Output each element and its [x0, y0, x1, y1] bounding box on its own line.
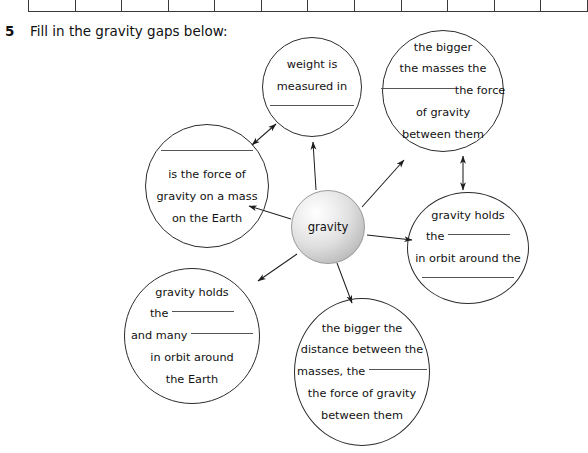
bubble-line-prefix: the — [150, 307, 169, 320]
bubble-line: gravity holds — [431, 205, 505, 227]
bubble-line: the bigger — [414, 37, 472, 59]
bubble-line: on the Earth — [172, 208, 242, 230]
answer-blank[interactable] — [161, 150, 253, 151]
bubble-line-prefix: and many — [131, 329, 188, 342]
arrow-gravity-to-weight — [313, 142, 316, 190]
bubble-line: is the force of — [168, 164, 246, 186]
answer-blank[interactable] — [172, 311, 234, 312]
bubble-line: the — [150, 303, 234, 325]
central-gravity-label: gravity — [308, 220, 349, 234]
bubble-line: between them — [402, 124, 484, 146]
bubble-line: the masses the — [400, 58, 487, 80]
bubble-line: measured in — [277, 76, 347, 98]
bubble-weight-is-measured-in[interactable]: weight is measured in — [262, 37, 362, 137]
bubble-line: weight is — [287, 54, 338, 76]
bubble-line: in orbit around the — [415, 248, 521, 270]
bubble-line: the — [426, 226, 510, 248]
bubble-line: distance between the — [301, 339, 423, 361]
arrow-gravity-to-distance — [337, 263, 352, 303]
answer-blank[interactable] — [191, 333, 253, 334]
bubble-gravity-holds-the-in-orbit[interactable]: gravity holds the in orbit around the — [407, 192, 529, 304]
arrow-gravity-to-masses — [362, 160, 404, 207]
arrow-weight-def-to-weight — [252, 124, 276, 145]
bubble-line-prefix: the — [426, 230, 445, 243]
bubble-line-suffix: the force — [455, 84, 506, 97]
bubble-line-prefix: masses, the — [297, 365, 365, 378]
bubble-line: the Earth — [166, 369, 218, 391]
bubble-line — [161, 143, 253, 165]
bubble-line: gravity on a mass — [156, 186, 257, 208]
answer-blank[interactable] — [369, 369, 427, 370]
bubble-line: the force of gravity — [308, 383, 416, 405]
bubble-line: and many — [131, 325, 253, 347]
central-gravity-node[interactable]: gravity — [291, 190, 365, 264]
bubble-line: masses, the — [297, 361, 427, 383]
answer-blank[interactable] — [381, 88, 455, 89]
arrow-gravity-to-moon — [367, 235, 412, 240]
answer-blank[interactable] — [270, 105, 354, 106]
answer-blank[interactable] — [448, 234, 510, 235]
bubble-line — [422, 270, 514, 292]
bubble-line: the bigger the — [322, 318, 403, 340]
bubble-the-bigger-the-distance[interactable]: the bigger the distance between the mass… — [294, 298, 430, 446]
arrow-gravity-to-planets — [258, 254, 297, 281]
bubble-line: in orbit around — [150, 347, 234, 369]
bubble-line — [270, 98, 354, 120]
answer-blank[interactable] — [422, 277, 514, 278]
bubble-line: of gravity — [416, 102, 470, 124]
bubble-line: between them — [321, 405, 403, 427]
bubble-gravity-holds-planets[interactable]: gravity holds the and many in orbit arou… — [124, 268, 260, 404]
bubble-line: the force — [381, 80, 506, 102]
bubble-line: gravity holds — [155, 282, 229, 304]
bubble-force-of-gravity-on-a-mass[interactable]: is the force of gravity on a mass on the… — [145, 124, 269, 248]
bubble-the-bigger-the-masses[interactable]: the bigger the masses the the force of g… — [382, 30, 504, 152]
